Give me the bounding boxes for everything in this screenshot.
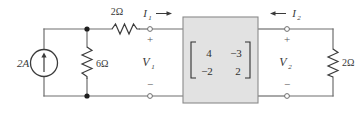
resistor-2ohm-series-zigzag: [112, 24, 140, 34]
resistor-2ohm-load-zigzag: [328, 49, 338, 77]
matrix-cell-1-0: −2: [201, 65, 213, 77]
resistor-2ohm-load-label: 2Ω: [342, 57, 354, 68]
port2-current-label: I: [291, 7, 297, 19]
port2-minus-sign: −: [284, 78, 290, 90]
port2-arrow-head: [270, 11, 276, 16]
port2-plus-sign: +: [284, 33, 290, 45]
current-source-label: 2A: [17, 57, 30, 69]
resistor-2ohm-series: [112, 24, 140, 34]
port1-minus-sign: −: [147, 78, 153, 90]
resistor-6ohm-label: 6Ω: [96, 58, 108, 69]
port2-voltage-label: V: [279, 55, 288, 69]
current-source-2a: [31, 50, 58, 77]
matrix-cell-0-1: −3: [230, 47, 242, 59]
port1-current-arrow-icon: [156, 11, 172, 16]
port1-current-subscript: 1: [148, 14, 152, 22]
port2-current-arrow-icon: [270, 11, 286, 16]
matrix-cell-0-0: 4: [206, 47, 212, 59]
port1-arrow-head: [167, 11, 173, 16]
port2-terminal-top: [285, 27, 290, 32]
resistor-2ohm-series-label: 2Ω: [111, 6, 123, 17]
port2-current-subscript: 2: [297, 14, 301, 22]
resistor-2ohm-load: [328, 49, 338, 77]
port1-plus-sign: +: [147, 33, 153, 45]
resistor-6ohm-zigzag: [82, 47, 92, 79]
node-dot-top: [84, 26, 89, 31]
port1-current-label: I: [142, 7, 148, 19]
matrix-cell-1-1: 2: [235, 65, 241, 77]
resistor-6ohm: [82, 47, 92, 79]
port1-voltage-subscript: 1: [151, 63, 155, 71]
circuit-diagram: 2A 6Ω 2Ω I 1 + V 1 −: [0, 0, 363, 118]
port1-voltage-label: V: [142, 55, 151, 69]
node-dot-bottom: [84, 93, 89, 98]
two-port-block: [183, 17, 258, 103]
port1-terminal-bottom: [148, 94, 153, 99]
port2-terminal-bottom: [285, 94, 290, 99]
port2-voltage-subscript: 2: [288, 63, 292, 71]
port1-terminal-top: [148, 27, 153, 32]
